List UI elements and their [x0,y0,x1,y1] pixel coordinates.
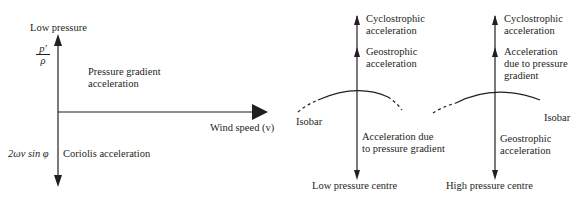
high-isobar-label: Isobar [544,112,570,124]
coriolis-label: Coriolis acceleration [63,148,150,160]
high-pressure-gradient-label-line2: due to pressure [504,58,568,70]
coriolis-term: 2ωv sin φ [8,148,49,160]
low-cyclostrophic-label-line2: acceleration [366,25,417,37]
high-pressure-gradient-label-line1: Acceleration [504,46,558,58]
y-axis-down-arrowhead [54,175,62,187]
high-geostrophic-label-line1: Geostrophic [500,133,551,145]
low-isobar-curve [318,91,388,100]
low-pressure-gradient-label-line1: Acceleration due [362,131,433,143]
low-geostrophic-label-line2: acceleration [366,58,417,70]
diagram-canvas: Low pressure p′ ρ Pressure gradient acce… [0,0,585,202]
pressure-term-denominator: ρ [36,55,50,67]
low-geostrophic-label-line1: Geostrophic [366,46,417,58]
low-geostrophic-arrowhead [354,47,360,57]
high-geostrophic-arrowhead [492,170,498,180]
high-geostrophic-label-line2: acceleration [500,145,551,157]
low-cyclostrophic-label-line1: Cyclostrophic [366,13,425,25]
y-axis-up-arrowhead [54,34,62,46]
low-pressure-gradient-arrowhead [354,170,360,180]
pressure-gradient-label-line2: acceleration [88,78,139,90]
x-axis-arrowhead [252,104,268,120]
high-cyclostrophic-arrowhead [492,15,498,25]
pressure-term: p′ ρ [36,43,50,67]
high-pressure-centre-caption: High pressure centre [446,180,533,192]
pressure-gradient-label-line1: Pressure gradient [88,66,161,78]
low-isobar-label: Isobar [296,116,322,128]
high-isobar-curve [456,92,540,103]
low-isobar-dashed-right [388,97,402,110]
high-cyclostrophic-label-line1: Cyclostrophic [504,13,563,25]
diagram-graphics [0,0,585,202]
high-pressure-gradient-label-line3: gradient [504,70,538,82]
low-pressure-label: Low pressure [30,22,87,34]
high-cyclostrophic-label-line2: acceleration [504,25,555,37]
low-pressure-centre-caption: Low pressure centre [312,180,397,192]
high-isobar-dashed-left [433,103,456,113]
low-cyclostrophic-arrowhead [354,15,360,25]
wind-speed-label: Wind speed (v) [210,122,274,134]
high-pressure-gradient-arrowhead [492,47,498,57]
pressure-term-numerator: p′ [36,43,50,55]
low-isobar-dashed-left [298,100,318,112]
low-pressure-gradient-label-line2: to pressure gradient [362,143,445,155]
